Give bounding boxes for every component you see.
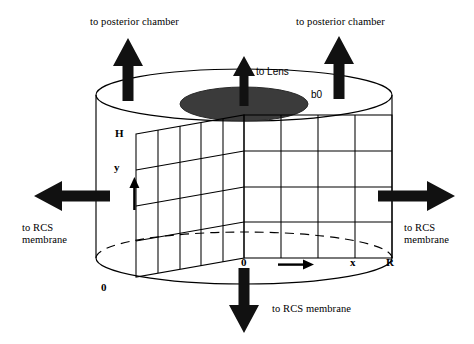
arrow-up-small-shaft: [133, 185, 135, 210]
arrow-up-small-head: [129, 177, 139, 188]
label-y-axis: y: [114, 161, 120, 173]
grid-left-panel: [136, 115, 244, 277]
label-origin-grid: 0: [241, 256, 247, 268]
grid-right-panel: [244, 115, 392, 258]
arrow-right: [378, 181, 455, 211]
callout-bottom: to RCS membrane: [272, 303, 351, 315]
label-origin-left: 0: [101, 281, 107, 293]
grid-left-row-1: [136, 151, 244, 170]
grid-left-row-3: [136, 222, 244, 241]
callout-left: to RCS membrane: [22, 222, 67, 245]
callout-to-lens: to Lens: [256, 66, 289, 77]
arrow-right-small-shaft: [278, 263, 306, 265]
arrow-up-left: [113, 38, 143, 101]
diagram-svg: [0, 0, 474, 344]
callout-right: to RCS membrane: [404, 222, 449, 245]
label-b0: b0: [311, 89, 322, 100]
label-x-axis: x: [350, 256, 356, 268]
arrow-down: [229, 268, 259, 333]
callout-top-left: to posterior chamber: [90, 16, 179, 28]
label-height-H: H: [115, 127, 124, 139]
label-radius-R: R: [386, 256, 394, 268]
arrow-right-small-head: [303, 260, 314, 270]
grid-left-row-2: [136, 187, 244, 206]
figure-canvas: to posterior chamber to posterior chambe…: [0, 0, 474, 344]
callout-top-right: to posterior chamber: [296, 16, 385, 28]
arrow-left: [34, 181, 110, 211]
arrow-up-right: [324, 36, 354, 99]
